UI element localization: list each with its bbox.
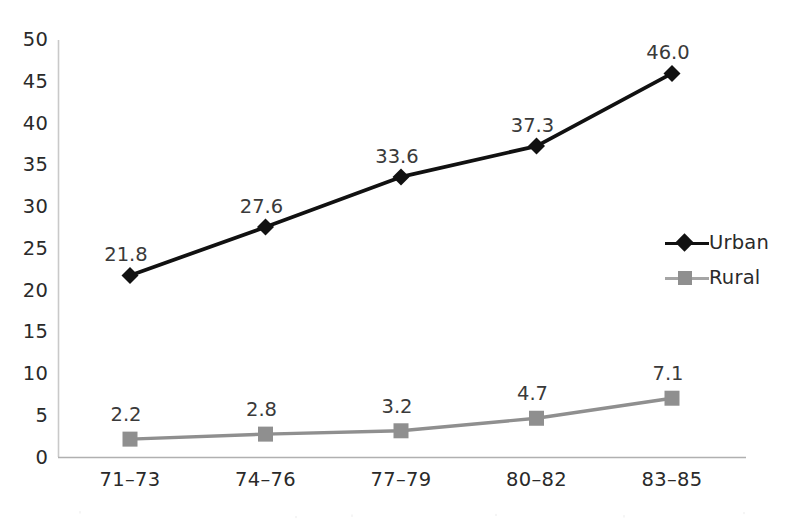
y-axis-tick-label: 0 [4,448,48,468]
x-axis-tick-label: 80–82 [467,470,607,490]
y-axis-tick-label: 45 [4,72,48,92]
y-axis-tick-label: 5 [4,406,48,426]
y-axis-tick-label: 30 [4,197,48,217]
y-axis-tick-label: 40 [4,114,48,134]
data-point-marker [122,267,139,284]
data-point-label: 2.2 [86,405,166,425]
legend-label-urban: Urban [709,233,769,253]
data-point-marker [123,432,138,447]
x-axis-tick-label: 77–79 [331,470,471,490]
data-point-label: 27.6 [222,197,302,217]
data-point-marker [528,138,545,155]
data-point-label: 33.6 [357,147,437,167]
data-point-marker [257,219,274,236]
legend-entry-rural: Rural [665,268,760,288]
data-point-marker [664,65,681,82]
y-axis-tick-label: 25 [4,239,48,259]
data-point-marker [258,427,273,442]
data-point-marker [393,168,410,185]
y-axis-tick-label: 15 [4,322,48,342]
legend-marker-square-icon [665,269,709,287]
x-axis-tick-label: 74–76 [196,470,336,490]
data-point-label: 46.0 [628,43,708,63]
data-point-marker [665,391,680,406]
data-point-label: 37.3 [493,116,573,136]
x-axis-tick-label: 71–73 [60,470,200,490]
y-axis-tick-label: 50 [4,30,48,50]
series-markers-urban [122,65,681,284]
data-point-label: 4.7 [493,384,573,404]
legend-marker-diamond-icon [665,234,709,252]
line-chart: 50454035302520151050 71–7374–7677–7980–8… [0,0,800,522]
y-axis-tick-label: 35 [4,155,48,175]
data-point-marker [529,411,544,426]
y-axis-tick-label: 10 [4,364,48,384]
data-point-label: 3.2 [357,397,437,417]
legend-entry-urban: Urban [665,233,769,253]
data-point-label: 2.8 [222,400,302,420]
legend-label-rural: Rural [709,268,760,288]
y-axis-tick-label: 20 [4,281,48,301]
data-point-label: 21.8 [86,245,166,265]
data-point-label: 7.1 [628,364,708,384]
x-axis-tick-label: 83–85 [602,470,742,490]
data-point-marker [394,423,409,438]
